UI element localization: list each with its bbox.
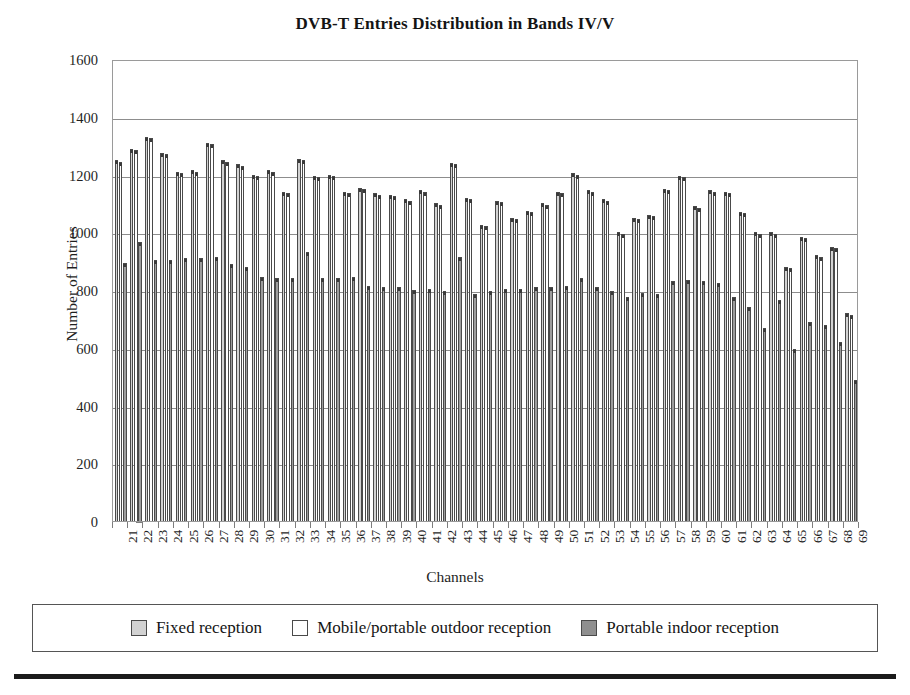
bar-indoor-channel-38 bbox=[382, 287, 385, 521]
bar-fixed-channel-29 bbox=[236, 164, 239, 521]
x-tick-label-65: 65 bbox=[794, 530, 810, 543]
bar-cap bbox=[145, 138, 148, 141]
bar-cap bbox=[287, 194, 290, 197]
x-tick-label-68: 68 bbox=[840, 530, 856, 543]
x-tick-label-40: 40 bbox=[414, 530, 430, 543]
bar-cap bbox=[419, 191, 422, 194]
legend-item-fixed[interactable]: Fixed reception bbox=[131, 618, 262, 638]
bar-cap bbox=[500, 203, 503, 206]
bar-indoor-channel-67 bbox=[824, 325, 827, 521]
bar-fixed-channel-41 bbox=[419, 190, 422, 521]
bar-cap bbox=[241, 167, 244, 170]
bar-mobile-channel-41 bbox=[423, 192, 426, 521]
bar-indoor-channel-32 bbox=[291, 278, 294, 521]
bar-cap bbox=[519, 290, 522, 293]
legend-item-indoor[interactable]: Portable indoor reception bbox=[581, 618, 779, 638]
bar-cap bbox=[115, 161, 118, 164]
bar-cap bbox=[724, 193, 727, 196]
bar-cap bbox=[352, 278, 355, 281]
bar-cap bbox=[820, 258, 823, 261]
x-tick-mark bbox=[127, 522, 128, 528]
bar-cap bbox=[398, 288, 401, 291]
bar-cap bbox=[830, 248, 833, 251]
bar-cap bbox=[702, 282, 705, 285]
bar-cap bbox=[367, 287, 370, 290]
bar-fixed-channel-23 bbox=[145, 137, 148, 521]
bar-fixed-channel-51 bbox=[571, 173, 574, 521]
bar-mobile-channel-40 bbox=[408, 201, 411, 522]
x-tick-label-64: 64 bbox=[779, 530, 795, 543]
bar-indoor-channel-48 bbox=[534, 287, 537, 521]
bar-indoor-channel-34 bbox=[321, 278, 324, 521]
x-tick-label-24: 24 bbox=[170, 530, 186, 543]
bar-cap bbox=[215, 258, 218, 261]
bar-fixed-channel-66 bbox=[800, 237, 803, 521]
x-tick-mark bbox=[508, 522, 509, 528]
bar-fixed-channel-52 bbox=[587, 190, 590, 521]
bar-cap bbox=[424, 193, 427, 196]
x-tick-mark bbox=[614, 522, 615, 528]
x-tick-mark bbox=[462, 522, 463, 528]
bar-cap bbox=[606, 202, 609, 205]
x-tick-label-59: 59 bbox=[703, 530, 719, 543]
bar-mobile-channel-56 bbox=[652, 216, 655, 521]
bar-fixed-channel-43 bbox=[450, 163, 453, 521]
bar-group-channel-25 bbox=[176, 61, 188, 521]
bar-cap bbox=[230, 265, 233, 268]
y-tick-label-1000: 1000 bbox=[69, 225, 98, 242]
y-tick-label-1400: 1400 bbox=[69, 109, 98, 126]
bar-fixed-channel-46 bbox=[495, 201, 498, 522]
x-tick-mark bbox=[858, 522, 859, 528]
bar-mobile-channel-35 bbox=[332, 176, 335, 521]
bar-cap bbox=[245, 268, 248, 271]
bar-indoor-channel-33 bbox=[306, 252, 309, 521]
bar-cap bbox=[804, 239, 807, 242]
x-tick-mark bbox=[797, 522, 798, 528]
bar-cap bbox=[572, 174, 575, 177]
bar-cap bbox=[728, 194, 731, 197]
bar-fixed-channel-50 bbox=[556, 192, 559, 521]
bar-cap bbox=[211, 145, 214, 148]
bar-cap bbox=[526, 212, 529, 215]
x-tick-label-26: 26 bbox=[201, 530, 217, 543]
bar-fixed-channel-26 bbox=[191, 170, 194, 521]
bar-cap bbox=[732, 298, 735, 301]
bar-cap bbox=[743, 214, 746, 217]
bar-cap bbox=[789, 269, 792, 272]
x-tick-label-56: 56 bbox=[657, 530, 673, 543]
bottom-rule bbox=[14, 674, 896, 679]
bar-group-channel-67 bbox=[815, 61, 827, 521]
bar-cap bbox=[550, 288, 553, 291]
bar-fixed-channel-67 bbox=[815, 255, 818, 521]
bar-group-channel-49 bbox=[541, 61, 553, 521]
bar-indoor-channel-44 bbox=[473, 294, 476, 521]
y-tick-label-800: 800 bbox=[76, 283, 98, 300]
legend-item-mobile[interactable]: Mobile/portable outdoor reception bbox=[292, 618, 551, 638]
bar-cap bbox=[256, 177, 259, 180]
bar-fixed-channel-53 bbox=[602, 199, 605, 521]
x-tick-label-57: 57 bbox=[673, 530, 689, 543]
x-tick-label-47: 47 bbox=[520, 530, 536, 543]
bar-cap bbox=[450, 164, 453, 167]
bar-fixed-channel-34 bbox=[313, 176, 316, 521]
x-tick-mark bbox=[401, 522, 402, 528]
bar-fixed-channel-55 bbox=[632, 218, 635, 521]
bar-group-channel-44 bbox=[465, 61, 477, 521]
bar-mobile-channel-32 bbox=[286, 193, 289, 521]
x-tick-mark bbox=[569, 522, 570, 528]
bar-mobile-channel-29 bbox=[241, 166, 244, 521]
bar-group-channel-26 bbox=[191, 61, 203, 521]
y-axis: Number of Entries 0200400600800100012001… bbox=[30, 60, 106, 522]
bar-fixed-channel-28 bbox=[221, 160, 224, 521]
bar-cap bbox=[713, 193, 716, 196]
bar-group-channel-61 bbox=[724, 61, 736, 521]
bar-indoor-channel-40 bbox=[412, 290, 415, 521]
bar-indoor-channel-61 bbox=[732, 297, 735, 521]
bar-mobile-channel-66 bbox=[804, 238, 807, 521]
bar-mobile-channel-47 bbox=[515, 219, 518, 521]
bar-cap bbox=[378, 196, 381, 199]
bar-cap bbox=[313, 177, 316, 180]
x-tick-mark bbox=[447, 522, 448, 528]
legend-swatch-icon-fixed bbox=[131, 620, 147, 636]
bar-mobile-channel-34 bbox=[317, 177, 320, 521]
